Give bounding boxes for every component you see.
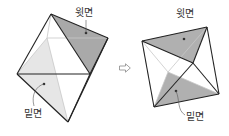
octahedron-diagram: 윗면 밑면 윗면 밑면 bbox=[0, 0, 229, 136]
top-face-label-right: 윗면 bbox=[176, 9, 194, 19]
bottom-face-label-right: 밑면 bbox=[186, 112, 204, 122]
top-face-marker-right bbox=[183, 38, 186, 41]
